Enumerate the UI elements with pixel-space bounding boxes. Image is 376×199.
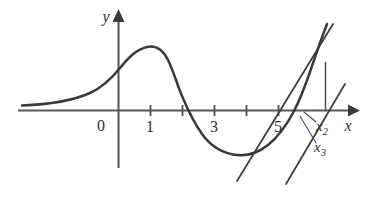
function-curve (22, 24, 327, 155)
x-tick-label-5: 5 (274, 118, 282, 135)
newton-method-figure: 0 1 3 5 y x x2 x3 (0, 0, 376, 199)
x-axis-label: x (343, 117, 351, 134)
label-x2-subscript: 2 (323, 126, 329, 137)
label-x3-subscript: 3 (320, 147, 326, 158)
tangent-line-at-x3 (286, 84, 345, 184)
y-axis-label: y (100, 8, 110, 26)
x-tick-label-1: 1 (146, 118, 154, 135)
origin-label: 0 (97, 117, 105, 134)
leader-line-x2 (304, 112, 316, 122)
x-axis-arrowhead (348, 105, 360, 117)
y-axis-arrowhead (113, 9, 125, 22)
tangent-line-at-x2 (237, 24, 333, 181)
label-x3: x3 (313, 139, 326, 158)
x-tick-label-3: 3 (210, 118, 218, 135)
label-x2: x2 (315, 118, 329, 137)
